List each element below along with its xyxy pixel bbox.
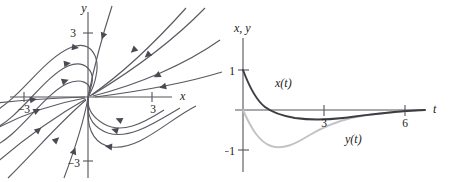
phase-x-axis-label: x xyxy=(179,89,186,103)
flow-arrow-icon xyxy=(72,44,80,52)
phase-portrait-svg: y x 3 −3 −3 3 xyxy=(0,0,225,182)
flow-arrow-icon xyxy=(105,143,113,150)
trajectory xyxy=(88,97,180,135)
phase-flow-arrows xyxy=(30,32,167,155)
flow-arrow-icon xyxy=(52,135,62,145)
phase-xtick-label-3: 3 xyxy=(150,103,156,115)
ts-t-axis-label: t xyxy=(433,102,437,116)
flow-arrow-icon xyxy=(33,106,42,115)
flow-arrow-icon xyxy=(98,32,107,41)
phase-xtick-label-neg3: −3 xyxy=(18,103,30,115)
figure-root: y x 3 −3 −3 3 x, y t 1 −1 xyxy=(0,0,450,182)
phase-trajectories xyxy=(0,6,222,178)
ts-vtick-label-neg1: −1 xyxy=(225,145,235,157)
curve-label-x: x(t) xyxy=(274,76,292,90)
phase-y-axis-label: y xyxy=(80,1,87,15)
trajectory xyxy=(0,45,97,112)
flow-arrow-icon xyxy=(114,115,123,124)
phase-portrait-panel: y x 3 −3 −3 3 xyxy=(0,0,225,182)
ts-vtick-label-1: 1 xyxy=(229,65,235,77)
ts-ttick-label-3: 3 xyxy=(321,117,327,129)
phase-ytick-label-neg3: −3 xyxy=(68,157,80,169)
flow-arrow-icon xyxy=(129,45,139,55)
trajectory xyxy=(90,8,186,96)
time-series-panel: x, y t 1 −1 3 6 x(t) y(t) xyxy=(225,0,450,182)
phase-ytick-label-3: 3 xyxy=(70,27,76,39)
ts-ttick-label-6: 6 xyxy=(402,117,408,129)
curve-label-y: y(t) xyxy=(344,132,362,146)
ts-vertical-axis-label: x, y xyxy=(233,21,251,35)
curve-y-of-t xyxy=(243,110,425,147)
curve-x-of-t xyxy=(243,70,425,120)
time-series-svg: x, y t 1 −1 3 6 x(t) y(t) xyxy=(225,0,450,182)
